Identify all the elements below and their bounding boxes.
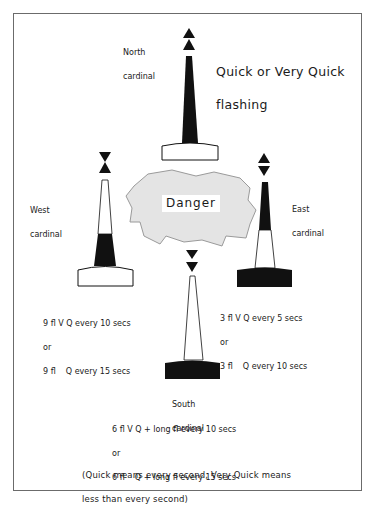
south-topmark-upper-cone-icon xyxy=(186,250,198,259)
west-char-line3: 9 fl Q every 15 secs xyxy=(43,368,131,376)
west-char-line2: or xyxy=(43,344,131,352)
footnote: (Quick means every second, Very Quick me… xyxy=(82,455,291,508)
west-topmark-lower-cone-icon xyxy=(99,162,111,173)
footnote-line2: less than every second) xyxy=(82,495,291,503)
south-spar-white xyxy=(184,276,203,360)
east-cardinal-label: East cardinal xyxy=(292,190,324,246)
west-cardinal-buoy xyxy=(78,152,133,286)
east-char-line1: 3 fl V Q every 5 secs xyxy=(220,315,307,323)
west-label-line2: cardinal xyxy=(30,231,62,239)
south-char-line1: 6 fl V Q + long fl every 10 secs xyxy=(112,426,236,434)
east-topmark-lower-cone-icon xyxy=(258,166,270,176)
east-label-line1: East xyxy=(292,206,324,214)
north-label-line2: cardinal xyxy=(123,73,155,81)
east-spar-white xyxy=(255,230,275,268)
north-topmark-lower-cone-icon xyxy=(183,39,195,50)
north-cardinal-buoy xyxy=(162,28,218,160)
west-cardinal-label: West cardinal xyxy=(30,191,62,247)
north-base xyxy=(162,143,218,160)
north-spar xyxy=(182,56,198,143)
danger-label: Danger xyxy=(162,195,220,212)
west-topmark-upper-cone-icon xyxy=(99,152,111,162)
east-char-line2: or xyxy=(220,339,307,347)
south-base xyxy=(165,361,220,380)
west-label-line1: West xyxy=(30,207,62,215)
east-characteristic: 3 fl V Q every 5 secs or 3 fl Q every 10… xyxy=(220,299,307,379)
east-spar-black-top xyxy=(259,182,271,230)
east-topmark-upper-cone-icon xyxy=(258,153,270,163)
east-base xyxy=(237,268,292,288)
west-base xyxy=(78,267,133,287)
east-label-line2: cardinal xyxy=(292,230,324,238)
flashing-title: Quick or Very Quick flashing xyxy=(216,44,345,121)
west-char-line1: 9 fl V Q every 10 secs xyxy=(43,320,131,328)
flashing-title-line1: Quick or Very Quick xyxy=(216,66,345,77)
south-label-line1: South xyxy=(172,401,204,409)
flashing-title-line2: flashing xyxy=(216,99,345,110)
north-topmark-upper-cone-icon xyxy=(183,28,195,38)
south-topmark-lower-cone-icon xyxy=(186,262,198,272)
west-spar-white xyxy=(98,180,112,234)
north-label-line1: North xyxy=(123,49,155,57)
west-characteristic: 9 fl V Q every 10 secs or 9 fl Q every 1… xyxy=(43,304,131,384)
south-cardinal-buoy xyxy=(165,250,220,379)
north-cardinal-label: North cardinal xyxy=(123,33,155,89)
footnote-line1: (Quick means every second, Very Quick me… xyxy=(82,471,291,479)
west-spar-black-band xyxy=(94,234,116,266)
east-char-line3: 3 fl Q every 10 secs xyxy=(220,363,307,371)
